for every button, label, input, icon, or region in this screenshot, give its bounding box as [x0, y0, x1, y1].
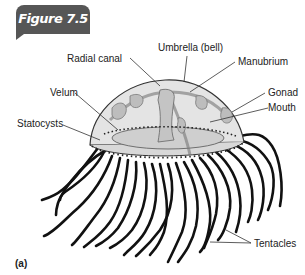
jellyfish-diagram — [0, 0, 305, 275]
label-radial-canal: Radial canal — [67, 53, 122, 64]
label-velum: Velum — [50, 87, 78, 98]
label-statocysts: Statocysts — [17, 118, 63, 129]
label-umbrella: Umbrella (bell) — [158, 42, 223, 53]
panel-label: (a) — [15, 258, 27, 269]
umbrella-bell — [90, 80, 244, 158]
label-mouth: Mouth — [268, 102, 296, 113]
label-manubrium: Manubrium — [238, 56, 288, 67]
label-tentacles: Tentacles — [254, 238, 296, 249]
label-gonad: Gonad — [268, 87, 298, 98]
